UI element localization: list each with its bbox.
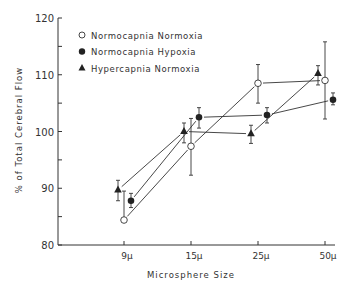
triangle-marker [247, 129, 255, 136]
series-line [122, 135, 181, 187]
series-line [263, 81, 320, 83]
x-tick-label: 25μ [252, 251, 269, 261]
x-tick-label: 50μ [319, 251, 336, 261]
open-circle-marker [188, 143, 195, 150]
legend-open-circle-icon [79, 32, 85, 38]
series-line [255, 77, 315, 130]
open-circle-marker [255, 80, 262, 87]
x-tick-label: 15μ [185, 251, 202, 261]
legend: Normocapnia NormoxiaNormocapnia HypoxiaH… [79, 31, 204, 74]
legend-filled-circle-icon [79, 48, 85, 54]
triangle-marker [114, 185, 122, 192]
y-tick-label: 120 [35, 13, 54, 24]
filled-circle-marker [128, 197, 135, 204]
filled-circle-marker [196, 114, 203, 121]
y-axis-label: % of Total Cerebral Flow [14, 67, 24, 194]
y-tick-label: 90 [41, 183, 54, 194]
triangle-marker [180, 127, 188, 134]
legend-label: Hypercapnia Normoxia [91, 64, 200, 74]
legend-triangle-icon [79, 64, 86, 71]
x-axis-label: Microsphere Size [147, 270, 235, 280]
chart: 80901001101209μ15μ25μ50μMicrosphere Size… [0, 0, 352, 288]
series-normocapnia-hypoxia [128, 93, 337, 208]
series-line [189, 132, 246, 134]
open-circle-marker [121, 217, 128, 224]
series-line [127, 150, 187, 216]
x-tick-label: 9μ [121, 251, 133, 261]
triangle-marker [314, 69, 322, 76]
y-tick-label: 110 [35, 70, 54, 81]
legend-label: Normocapnia Normoxia [91, 31, 203, 41]
legend-label: Normocapnia Hypoxia [91, 47, 196, 57]
series-hypercapnia-normoxia [114, 66, 322, 201]
filled-circle-marker [330, 96, 337, 103]
y-tick-label: 100 [35, 127, 54, 138]
series-line [195, 87, 255, 143]
open-circle-marker [322, 77, 329, 84]
y-tick-label: 80 [41, 240, 54, 251]
series-line [204, 115, 262, 117]
